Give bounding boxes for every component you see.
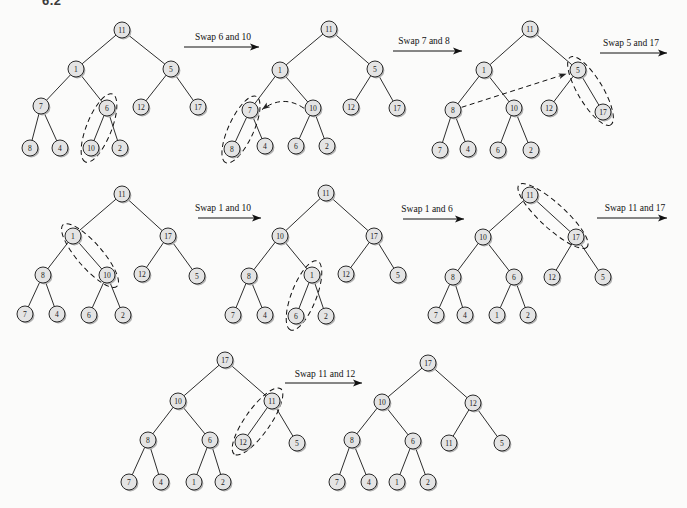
node-value: 6: [512, 273, 516, 282]
node-value: 17: [572, 233, 580, 242]
node-value: 7: [434, 311, 438, 320]
node-value: 8: [451, 106, 455, 115]
node-value: 10: [309, 104, 317, 113]
node-value: 6: [294, 312, 298, 321]
node-value: 7: [127, 478, 131, 487]
node-value: 10: [103, 271, 111, 280]
node-value: 11: [118, 190, 126, 199]
node-value: 7: [335, 478, 339, 487]
node-value: 12: [239, 438, 247, 447]
tree-step-7: 171011861257412: [121, 352, 306, 491]
node-value: 12: [545, 104, 553, 113]
node-value: 12: [342, 270, 350, 279]
figure-canvas: 6.2 111576121784102111571012178462111581…: [0, 0, 687, 508]
swap-arrow-6: Swap 11 and 17: [597, 203, 667, 218]
swap-arrow-label: Swap 1 and 6: [401, 204, 453, 214]
node-value: 1: [495, 311, 499, 320]
node-value: 17: [370, 232, 378, 241]
node-value: 12: [469, 399, 477, 408]
node-value: 10: [174, 397, 182, 406]
node-value: 10: [378, 398, 386, 407]
tree-step-8: 171012861157412: [329, 355, 511, 491]
node-value: 1: [310, 271, 314, 280]
node-value: 2: [325, 142, 329, 151]
node-value: 8: [146, 436, 150, 445]
node-value: 11: [526, 191, 534, 200]
node-value: 5: [295, 439, 299, 448]
swap-arrow-7: Swap 11 and 12: [285, 369, 362, 383]
node-value: 2: [529, 146, 533, 155]
node-value: 2: [221, 478, 225, 487]
node-value: 17: [599, 108, 607, 117]
node-value: 8: [451, 273, 455, 282]
node-value: 8: [350, 436, 354, 445]
node-value: 2: [121, 311, 125, 320]
node-value: 1: [395, 478, 399, 487]
tree-edge: [483, 195, 530, 237]
node-value: 17: [164, 232, 172, 241]
node-value: 10: [276, 232, 284, 241]
node-value: 7: [39, 102, 43, 111]
node-value: 17: [393, 104, 401, 113]
node-value: 10: [510, 104, 518, 113]
tree-edge: [382, 363, 428, 402]
node-value: 5: [601, 273, 605, 282]
tree-edge: [280, 193, 326, 236]
node-value: 2: [324, 312, 328, 321]
node-value: 1: [278, 66, 282, 75]
node-value: 4: [55, 310, 59, 319]
tree-edge: [484, 29, 530, 70]
node-value: 6: [496, 146, 500, 155]
tree-edge: [76, 30, 122, 69]
node-value: 7: [23, 310, 27, 319]
node-value: 2: [526, 311, 530, 320]
node-value: 4: [466, 145, 470, 154]
node-value: 6: [294, 142, 298, 151]
node-value: 4: [263, 142, 267, 151]
swap-arrow-label: Swap 1 and 10: [195, 203, 251, 213]
swap-arrow-label: Swap 11 and 12: [295, 369, 356, 379]
node-value: 17: [194, 103, 202, 112]
node-value: 12: [137, 103, 145, 112]
node-value: 4: [367, 478, 371, 487]
tree-step-3: 111581012177462: [432, 21, 621, 159]
comparison-arrow: [262, 101, 304, 109]
tree-edge: [73, 194, 122, 236]
node-value: 6: [208, 436, 212, 445]
node-value: 11: [526, 25, 534, 34]
swap-arrow-label: Swap 7 and 8: [398, 36, 450, 46]
node-value: 10: [87, 144, 95, 153]
node-value: 12: [138, 270, 146, 279]
node-value: 6: [87, 311, 91, 320]
node-value: 6: [105, 104, 109, 113]
node-value: 11: [325, 25, 333, 34]
swap-arrow-label: Swap 6 and 10: [195, 32, 251, 42]
node-value: 11: [322, 189, 330, 198]
swap-arrow-3: Swap 5 and 17: [600, 38, 667, 53]
node-value: 5: [195, 272, 199, 281]
tree-edge: [178, 360, 225, 401]
tree-step-2: 111571012178462: [214, 21, 406, 168]
node-value: 17: [221, 356, 229, 365]
node-value: 7: [438, 146, 442, 155]
node-value: 11: [118, 26, 126, 35]
node-value: 5: [169, 65, 173, 74]
node-value: 5: [576, 66, 580, 75]
node-value: 1: [482, 66, 486, 75]
heap-diagram: 1115761217841021115710121784621115810121…: [0, 0, 687, 508]
swap-arrow-label: Swap 5 and 17: [603, 38, 659, 48]
tree-step-6: 111017861257412: [428, 176, 612, 325]
tree-step-1: 111576121784102: [22, 22, 207, 167]
node-value: 1: [74, 65, 78, 74]
tree-step-4: 111178101257462: [17, 186, 206, 324]
node-value: 6: [411, 437, 415, 446]
swap-arrow-1: Swap 6 and 10: [184, 32, 259, 47]
node-value: 5: [500, 439, 504, 448]
tree-edge: [280, 29, 329, 70]
node-value: 10: [479, 233, 487, 242]
node-value: 5: [396, 271, 400, 280]
node-value: 17: [424, 359, 432, 368]
node-value: 4: [58, 144, 62, 153]
node-value: 8: [247, 272, 251, 281]
node-value: 7: [248, 106, 252, 115]
